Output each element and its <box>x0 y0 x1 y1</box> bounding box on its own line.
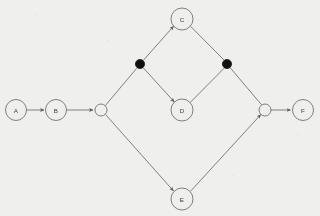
node-a[interactable]: A <box>6 100 27 121</box>
edge-c-to-dot2 <box>191 26 224 60</box>
node-a-label: A <box>14 107 19 114</box>
graph-svg: A B C D <box>0 0 320 216</box>
edge-dot1-to-c <box>143 26 173 60</box>
edge-dot2-to-junction2 <box>230 68 261 105</box>
edge-junction1-to-dot1 <box>105 68 136 105</box>
edge-e-to-junction2 <box>191 115 261 192</box>
node-junction-right[interactable] <box>259 104 271 116</box>
node-d[interactable]: D <box>171 99 193 121</box>
diagram-canvas: A B C D <box>0 0 320 216</box>
node-junction-right-circle <box>259 104 271 116</box>
node-e-label: E <box>180 196 184 203</box>
node-filled-dot-right[interactable] <box>222 59 231 68</box>
node-c[interactable]: C <box>171 8 193 30</box>
node-b-label: B <box>54 107 58 114</box>
node-filled-dot-left-circle <box>135 59 144 68</box>
node-f[interactable]: F <box>293 100 314 121</box>
node-e[interactable]: E <box>171 188 193 210</box>
node-c-label: C <box>180 16 185 23</box>
node-filled-dot-right-circle <box>222 59 231 68</box>
edge-dot1-to-d <box>143 68 174 102</box>
node-b[interactable]: B <box>46 100 67 121</box>
node-junction-left-circle <box>95 104 107 116</box>
node-f-label: F <box>301 107 305 114</box>
edge-d-to-dot2 <box>190 68 224 102</box>
node-junction-left[interactable] <box>95 104 107 116</box>
node-filled-dot-left[interactable] <box>135 59 144 68</box>
node-d-label: D <box>180 107 185 114</box>
node-layer: A B C D <box>6 8 314 210</box>
edge-junction1-to-e <box>105 114 173 190</box>
